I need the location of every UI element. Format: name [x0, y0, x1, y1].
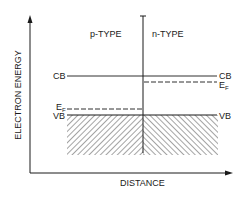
x-axis-label: DISTANCE — [120, 178, 165, 188]
vb-label-right: VB — [219, 111, 231, 121]
y-axis — [28, 15, 33, 173]
vb-label-left: VB — [53, 111, 65, 121]
ef-sub-right: F — [225, 85, 229, 91]
y-axis-arrow-icon — [28, 15, 33, 23]
x-axis-arrow-icon — [225, 171, 233, 176]
y-axis-label: ELECTRON ENERGY — [13, 50, 23, 140]
cb-label-left: CB — [53, 71, 66, 81]
valence-band-hatch-n — [143, 115, 218, 155]
valence-band-hatch-p — [67, 115, 143, 155]
band-diagram: p-TYPE n-TYPE CB E F VB CB E F VB DISTAN… — [0, 0, 244, 199]
p-type-label: p-TYPE — [90, 29, 122, 39]
n-type-label: n-TYPE — [152, 29, 184, 39]
x-axis — [30, 171, 233, 176]
